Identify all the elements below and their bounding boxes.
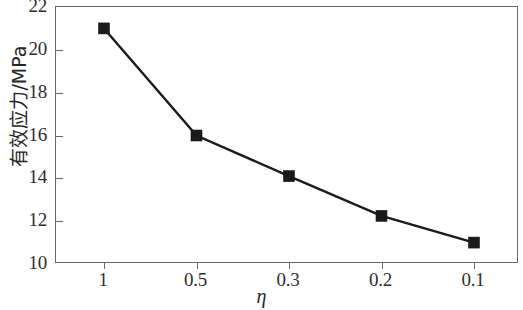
figure-chart-effective-stress: 有效应力/MPa 10121416182022 η 10.50.30.20.1 bbox=[0, 0, 523, 310]
y-tick-mark bbox=[56, 221, 63, 222]
x-tick-label: 0.2 bbox=[369, 270, 392, 289]
x-tick-mark bbox=[289, 262, 290, 269]
x-tick-label: 1 bbox=[98, 270, 107, 289]
x-tick-mark bbox=[104, 262, 105, 269]
x-tick-mark bbox=[474, 262, 475, 269]
y-axis-title: 有效应力/MPa bbox=[8, 0, 30, 221]
y-axis: 有效应力/MPa 10121416182022 bbox=[0, 0, 55, 310]
y-tick-mark bbox=[56, 136, 63, 137]
y-tick-label: 22 bbox=[29, 0, 47, 15]
x-tick-label: 0.1 bbox=[462, 270, 485, 289]
x-axis-title: η bbox=[0, 285, 523, 307]
y-tick-label: 16 bbox=[29, 125, 47, 144]
data-point-marker bbox=[191, 130, 202, 141]
data-series-layer bbox=[56, 7, 519, 264]
series-line bbox=[104, 28, 474, 242]
y-tick-label: 18 bbox=[29, 82, 47, 101]
data-point-marker bbox=[469, 237, 480, 248]
plot-area bbox=[55, 6, 518, 263]
data-point-marker bbox=[376, 210, 387, 221]
y-tick-label: 20 bbox=[29, 39, 47, 58]
y-tick-label: 12 bbox=[29, 210, 47, 229]
y-tick-mark bbox=[56, 178, 63, 179]
x-tick-mark bbox=[197, 262, 198, 269]
data-point-marker bbox=[99, 23, 110, 34]
y-tick-mark bbox=[56, 93, 63, 94]
x-tick-label: 0.3 bbox=[277, 270, 300, 289]
series-markers bbox=[99, 23, 480, 248]
x-tick-mark bbox=[382, 262, 383, 269]
y-tick-mark bbox=[56, 50, 63, 51]
y-tick-label: 14 bbox=[29, 167, 47, 186]
x-tick-label: 0.5 bbox=[184, 270, 207, 289]
data-point-marker bbox=[284, 171, 295, 182]
y-tick-label: 10 bbox=[29, 253, 47, 272]
